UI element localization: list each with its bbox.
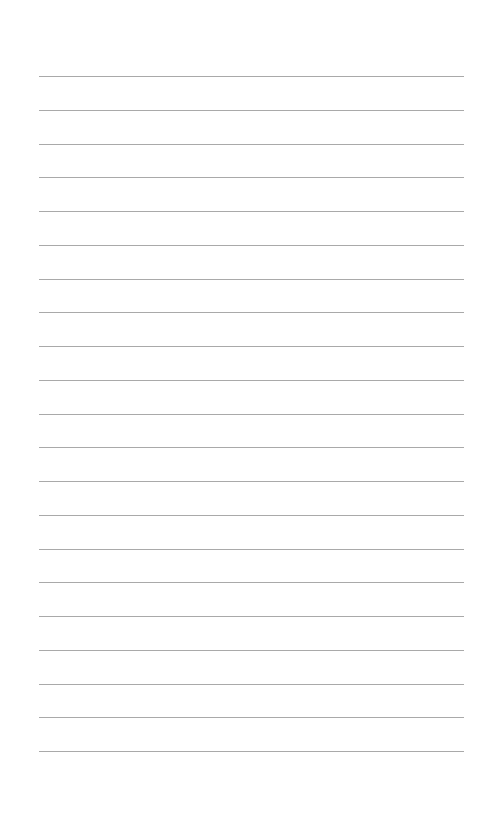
- ruled-line: [39, 447, 464, 448]
- ruled-line: [39, 211, 464, 212]
- ruled-line: [39, 751, 464, 752]
- ruled-line: [39, 346, 464, 347]
- ruled-line: [39, 110, 464, 111]
- ruled-line: [39, 481, 464, 482]
- ruled-line: [39, 312, 464, 313]
- ruled-line: [39, 549, 464, 550]
- ruled-line: [39, 717, 464, 718]
- ruled-line: [39, 414, 464, 415]
- ruled-line: [39, 76, 464, 77]
- ruled-line: [39, 684, 464, 685]
- ruled-line: [39, 515, 464, 516]
- ruled-line: [39, 177, 464, 178]
- ruled-line: [39, 380, 464, 381]
- ruled-line: [39, 279, 464, 280]
- ruled-line: [39, 650, 464, 651]
- ruled-line: [39, 144, 464, 145]
- ruled-line: [39, 582, 464, 583]
- ruled-line: [39, 616, 464, 617]
- ruled-line: [39, 245, 464, 246]
- lined-paper-page: [0, 0, 489, 817]
